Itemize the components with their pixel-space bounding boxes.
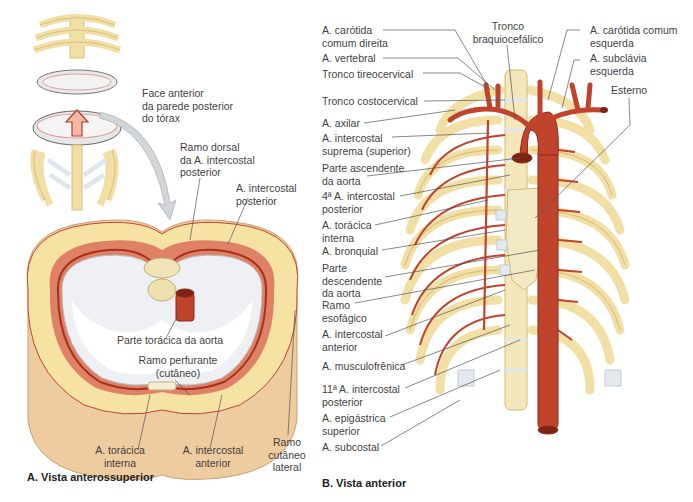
anterior-ribcage <box>405 70 625 434</box>
label-face-anterior: Face anterior da parede posterior do tór… <box>142 87 233 125</box>
label-tronco-braquiocefalico: Tronco braquiocefálico <box>470 20 546 45</box>
label-intercostal-anterior: A. intercostal anterior <box>322 328 383 353</box>
thoracic-cross-section <box>27 220 298 479</box>
label-esterno: Esterno <box>611 84 647 97</box>
upper-thorax-fragment <box>34 18 120 95</box>
label-a-toracica-interna: A. torácica interna <box>90 444 150 469</box>
label-ramo-perfurante: Ramo perfurante (cutâneo) <box>128 354 228 379</box>
label-vertebral: A. vertebral <box>322 52 376 65</box>
label-ramo-cutaneo-lateral: Ramo cutâneo lateral <box>262 436 312 474</box>
label-bronquial: A. bronquial <box>322 245 378 258</box>
label-ramo-dorsal: Ramo dorsal da A. intercostal posterior <box>180 141 255 179</box>
label-subclavia-esquerda: A. subclávia esquerda <box>590 52 647 77</box>
caption-panel-b: B. Vista anterior <box>322 477 406 489</box>
label-4a-intercostal-posterior: 4ª A. intercostal posterior <box>322 190 395 215</box>
label-subcostal: A. subcostal <box>322 441 379 454</box>
label-parte-toracica-aorta: Parte torácica da aorta <box>110 334 230 347</box>
label-carotida-direita: A. carótida comum direita <box>322 24 388 49</box>
label-tronco-costocervical: Tronco costocervical <box>322 95 418 108</box>
label-axilar: A. axilar <box>322 117 360 130</box>
caption-panel-a: A. Vista anterossuperior <box>27 471 154 483</box>
label-epigastrica-superior: A. epigástrica superior <box>322 412 386 437</box>
label-carotida-esquerda: A. carótida comum esquerda <box>590 24 678 49</box>
label-toracica-interna: A. torácica interna <box>322 219 372 244</box>
label-musculofrenica: A. musculofrênica <box>322 360 405 373</box>
label-a-intercostal-posterior: A. intercostal posterior <box>236 182 297 207</box>
label-parte-descendente: Parte descendente da aorta <box>322 262 382 300</box>
label-ramo-esofagico: Ramo esofágico <box>322 299 367 324</box>
lower-thorax-fragment <box>33 110 121 210</box>
label-parte-ascendente: Parte ascendente da aorta <box>322 162 404 187</box>
label-tronco-tireocervical: Tronco tireocervical <box>322 68 413 81</box>
label-11a-intercostal-posterior: 11ª A. intercostal posterior <box>322 383 400 408</box>
label-a-intercostal-anterior: A. intercostal anterior <box>178 444 248 469</box>
label-intercostal-suprema: A. intercostal suprema (superior) <box>322 132 411 157</box>
